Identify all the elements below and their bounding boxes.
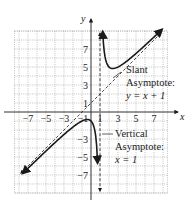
y-tick-label: 1 <box>83 98 88 109</box>
vertical-annotation-text: Vertical <box>115 128 148 139</box>
curve-left-branch <box>23 119 98 173</box>
x-tick-label: 5 <box>134 113 139 124</box>
chart: xy −7−5−3−113577531−3−5−7 SlantAsymptote… <box>0 0 192 202</box>
y-tick-label: 5 <box>83 62 88 73</box>
slant-annotation-text: Asymptote: <box>126 77 175 88</box>
y-tick-label: 3 <box>83 80 88 91</box>
x-tick-label: 7 <box>152 113 157 124</box>
y-tick-label: 7 <box>83 44 88 55</box>
vertical-annotation-text: x = 1 <box>114 154 137 165</box>
slant-annotation-text: Slant <box>126 64 148 75</box>
axes: xy <box>4 13 185 200</box>
x-tick-label: −7 <box>23 113 34 124</box>
x-tick-label: −3 <box>59 113 70 124</box>
y-axis-label: y <box>80 13 86 24</box>
y-tick-label: −7 <box>77 170 88 181</box>
y-tick-label: −3 <box>77 134 88 145</box>
x-axis-label: x <box>179 111 185 122</box>
vertical-annotation-text: Asymptote: <box>115 141 164 152</box>
x-tick-label: −5 <box>41 113 52 124</box>
annotation-slant: SlantAsymptote:y = x + 1 <box>113 64 175 101</box>
x-tick-label: 3 <box>116 113 121 124</box>
y-tick-label: −5 <box>77 152 88 163</box>
slant-annotation-text: y = x + 1 <box>125 90 165 101</box>
annotation-vertical: VerticalAsymptote:x = 1 <box>102 128 164 165</box>
annotations: SlantAsymptote:y = x + 1VerticalAsymptot… <box>102 64 175 165</box>
